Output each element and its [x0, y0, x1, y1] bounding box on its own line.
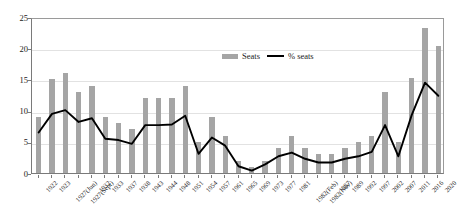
x-axis-tick-mark — [224, 175, 225, 178]
x-axis-tick-mark — [437, 175, 438, 178]
x-axis-tick-label: 1922 — [45, 180, 59, 194]
x-axis-tick-mark — [91, 175, 92, 178]
x-axis-tick-mark — [158, 175, 159, 178]
x-axis-tick-mark — [144, 175, 145, 178]
x-axis-tick-label: 1997 — [378, 180, 392, 194]
legend-label-percent-seats: % seats — [288, 51, 314, 61]
x-axis-tick-mark — [211, 175, 212, 178]
x-axis-tick-mark — [317, 175, 318, 178]
x-axis-tick-label: 1969 — [258, 180, 272, 194]
y-axis-tick-label: 0 — [4, 170, 28, 179]
x-axis-tick-mark — [51, 175, 52, 178]
x-axis-tick-mark — [371, 175, 372, 178]
legend-item-percent-seats: % seats — [267, 51, 314, 61]
x-axis-tick-mark — [118, 175, 119, 178]
x-axis-tick-label: 1987 — [338, 180, 352, 194]
x-axis-tick-label: 1923 — [58, 180, 72, 194]
x-axis-tick-label: 2020 — [444, 180, 458, 194]
x-axis-tick-mark — [424, 175, 425, 178]
x-axis-tick-label: 1954 — [204, 180, 218, 194]
y-axis-tick-label: 15 — [4, 76, 28, 85]
x-axis-tick-mark — [198, 175, 199, 178]
x-axis-tick-label: 1965 — [244, 180, 258, 194]
x-axis-tick-label: 2016 — [431, 180, 445, 194]
x-axis-tick-mark — [384, 175, 385, 178]
x-axis-tick-label: 1977 — [284, 180, 298, 194]
percent-seats-polyline — [39, 83, 439, 171]
x-axis-tick-mark — [344, 175, 345, 178]
legend-line-swatch-icon — [267, 55, 284, 57]
x-axis-tick-mark — [357, 175, 358, 178]
x-axis-tick-mark — [251, 175, 252, 178]
x-axis-tick-mark — [64, 175, 65, 178]
plot-area — [31, 18, 444, 174]
x-axis-tick-label: 2007 — [404, 180, 418, 194]
y-axis-tick-label: 10 — [4, 107, 28, 116]
x-axis-tick-mark — [291, 175, 292, 178]
x-axis-tick-label: 1943 — [151, 180, 165, 194]
x-axis-tick-label: 2011 — [417, 180, 431, 194]
x-axis-tick-mark — [184, 175, 185, 178]
x-axis-tick-label: 1944 — [164, 180, 178, 194]
x-axis-tick-label: 1992 — [364, 180, 378, 194]
legend-bar-swatch-icon — [222, 54, 238, 59]
chart-legend: Seats % seats — [222, 51, 314, 61]
x-axis-tick-mark — [277, 175, 278, 178]
y-axis-tick-label: 25 — [4, 14, 28, 23]
x-axis-tick-mark — [38, 175, 39, 178]
line-series-percent-seats — [32, 19, 445, 175]
x-axis-tick-label: 1957 — [218, 180, 232, 194]
x-axis-tick-label: 1938 — [138, 180, 152, 194]
legend-item-seats: Seats — [222, 51, 260, 61]
x-axis-tick-mark — [304, 175, 305, 178]
x-axis-tick-label: 1961 — [231, 180, 245, 194]
x-axis-tick-mark — [264, 175, 265, 178]
x-axis-tick-mark — [238, 175, 239, 178]
x-axis-tick-label: 1981 — [298, 180, 312, 194]
x-axis-tick-label: 1937 — [124, 180, 138, 194]
x-axis-tick-mark — [78, 175, 79, 178]
x-axis-tick-mark — [397, 175, 398, 178]
x-axis-tick-mark — [411, 175, 412, 178]
x-axis-tick-label: 1951 — [191, 180, 205, 194]
legend-label-seats: Seats — [242, 51, 260, 61]
x-axis: 192219231927(Jun)1927(Sept)1932193319371… — [31, 175, 444, 218]
y-axis-tick-label: 5 — [4, 138, 28, 147]
x-axis-tick-mark — [331, 175, 332, 178]
x-axis-tick-label: 1948 — [178, 180, 192, 194]
x-axis-tick-mark — [171, 175, 172, 178]
y-axis-tick-label: 20 — [4, 45, 28, 54]
x-axis-tick-mark — [131, 175, 132, 178]
x-axis-tick-mark — [104, 175, 105, 178]
